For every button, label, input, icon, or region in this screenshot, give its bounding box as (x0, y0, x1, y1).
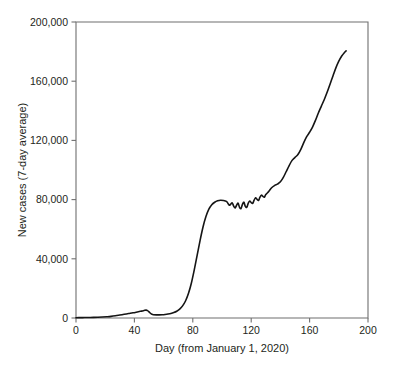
x-tick-label: 0 (73, 324, 79, 336)
line-chart: 040,00080,000120,000160,000200,000 04080… (0, 0, 394, 373)
chart-figure: 040,00080,000120,000160,000200,000 04080… (0, 0, 394, 373)
y-tick-label: 200,000 (30, 16, 68, 28)
y-tick-label: 40,000 (36, 253, 68, 265)
y-tick-label: 160,000 (30, 75, 68, 87)
x-tick-label: 120 (242, 324, 260, 336)
x-axis-ticks (76, 318, 368, 323)
x-tick-label: 200 (359, 324, 377, 336)
y-axis-ticks (72, 22, 77, 318)
y-tick-label: 80,000 (36, 193, 68, 205)
plot-frame (76, 22, 368, 318)
y-axis-title: New cases (7-day average) (16, 103, 28, 238)
x-tick-label: 40 (129, 324, 141, 336)
y-tick-label: 120,000 (30, 134, 68, 146)
new-cases-line (76, 51, 346, 318)
x-tick-label: 80 (187, 324, 199, 336)
axis-frame (76, 22, 368, 318)
y-axis-tick-labels: 040,00080,000120,000160,000200,000 (30, 16, 68, 324)
x-tick-label: 160 (301, 324, 319, 336)
x-axis-tick-labels: 04080120160200 (73, 324, 377, 336)
x-axis-title: Day (from January 1, 2020) (155, 342, 289, 354)
y-tick-label: 0 (62, 312, 68, 324)
